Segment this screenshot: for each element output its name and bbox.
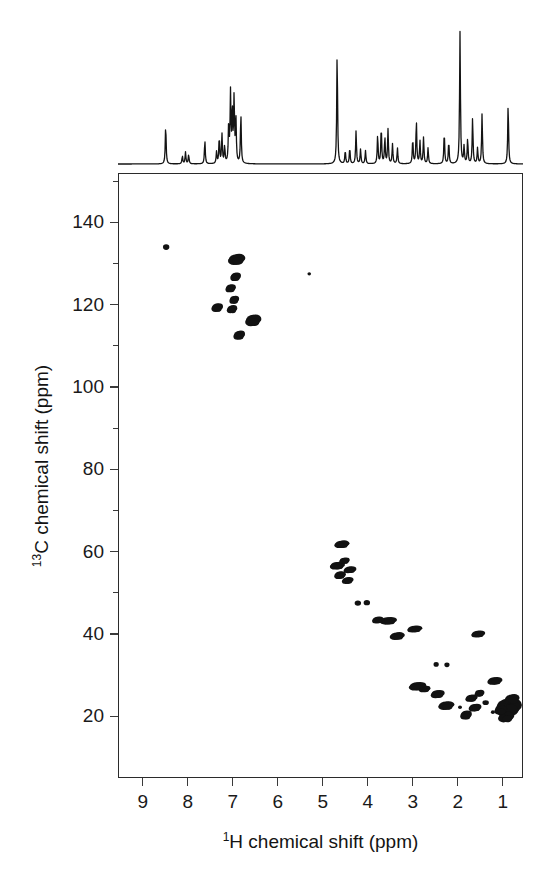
y-axis-label-text: C chemical shift (ppm) bbox=[31, 365, 52, 554]
x-tick-label: 4 bbox=[353, 791, 383, 813]
y-axis-label-superscript: 13 bbox=[30, 554, 44, 567]
y-tick-mark-minor bbox=[113, 510, 118, 511]
y-tick-mark bbox=[110, 386, 118, 387]
x-tick-mark bbox=[277, 778, 278, 786]
y-tick-mark bbox=[110, 633, 118, 634]
y-tick-mark-minor bbox=[113, 345, 118, 346]
y-tick-label: 120 bbox=[60, 294, 104, 316]
x-tick-label: 2 bbox=[443, 791, 473, 813]
x-tick-mark bbox=[457, 778, 458, 786]
x-tick-label: 3 bbox=[398, 791, 428, 813]
y-tick-mark bbox=[110, 469, 118, 470]
y-tick-label: 100 bbox=[60, 376, 104, 398]
x-tick-mark bbox=[367, 778, 368, 786]
x-tick-label: 1 bbox=[488, 791, 518, 813]
y-tick-mark bbox=[110, 716, 118, 717]
y-tick-label: 40 bbox=[60, 623, 104, 645]
x-tick-mark bbox=[187, 778, 188, 786]
x-tick-mark bbox=[232, 778, 233, 786]
y-tick-mark-minor bbox=[113, 181, 118, 182]
x-tick-mark bbox=[412, 778, 413, 786]
y-axis-label: 13C chemical shift (ppm) bbox=[31, 301, 53, 631]
proton-1d-projection-svg bbox=[118, 20, 523, 170]
nmr-figure: 987654321 20406080100120140 1H chemical … bbox=[0, 0, 552, 880]
x-tick-label: 6 bbox=[263, 791, 293, 813]
crosspeak-group bbox=[163, 244, 522, 722]
x-tick-label: 5 bbox=[308, 791, 338, 813]
x-tick-mark bbox=[502, 778, 503, 786]
y-tick-mark-minor bbox=[113, 592, 118, 593]
x-tick-mark bbox=[322, 778, 323, 786]
y-tick-label: 60 bbox=[60, 541, 104, 563]
y-tick-label: 80 bbox=[60, 458, 104, 480]
x-axis-label: 1H chemical shift (ppm) bbox=[118, 831, 523, 853]
y-tick-mark-minor bbox=[113, 263, 118, 264]
x-tick-label: 7 bbox=[218, 791, 248, 813]
x-tick-mark bbox=[142, 778, 143, 786]
x-axis-label-text: H chemical shift (ppm) bbox=[229, 831, 418, 852]
proton-1d-trace-line bbox=[118, 31, 523, 164]
x-tick-label: 8 bbox=[173, 791, 203, 813]
y-tick-mark bbox=[110, 304, 118, 305]
y-tick-label: 20 bbox=[60, 705, 104, 727]
y-tick-mark-minor bbox=[113, 428, 118, 429]
y-tick-mark bbox=[110, 551, 118, 552]
hsqc-crosspeak-svg bbox=[119, 174, 522, 777]
y-tick-mark bbox=[110, 222, 118, 223]
x-tick-label: 9 bbox=[128, 791, 158, 813]
proton-1d-projection bbox=[118, 20, 523, 170]
hsqc-plot-area[interactable] bbox=[118, 173, 523, 778]
y-tick-label: 140 bbox=[60, 211, 104, 233]
